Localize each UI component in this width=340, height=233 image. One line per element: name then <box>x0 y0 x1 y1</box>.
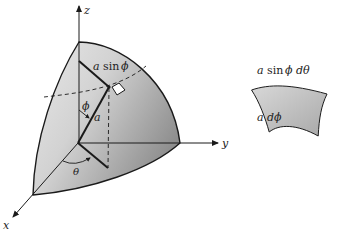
x-axis-label: x <box>3 219 10 232</box>
y-axis-label: y <box>221 137 229 150</box>
svg-text:a: a <box>93 60 100 73</box>
z-axis-label: z <box>83 4 90 17</box>
svg-text:sin: sin <box>103 60 119 73</box>
svg-text:a: a <box>257 111 264 124</box>
svg-text:dϕ: dϕ <box>267 111 282 124</box>
svg-text:ϕ: ϕ <box>285 64 293 77</box>
patch-width-label: a sin ϕ dθ <box>257 64 310 77</box>
phi-angle-label: ϕ <box>82 100 90 113</box>
svg-text:sin: sin <box>267 64 283 77</box>
svg-text:ϕ: ϕ <box>121 60 129 73</box>
radius-label: a <box>94 111 101 124</box>
spherical-coordinates-diagram: z y x a sin ϕ ϕ a θ a sin ϕ dθ a dϕ <box>0 0 340 233</box>
surface-point <box>107 85 110 88</box>
patch-height-label: a dϕ <box>257 111 282 124</box>
ring-radius-label: a sin ϕ <box>93 60 129 73</box>
svg-text:a: a <box>257 64 264 77</box>
theta-angle-label: θ <box>73 166 79 177</box>
svg-text:dθ: dθ <box>296 64 310 77</box>
